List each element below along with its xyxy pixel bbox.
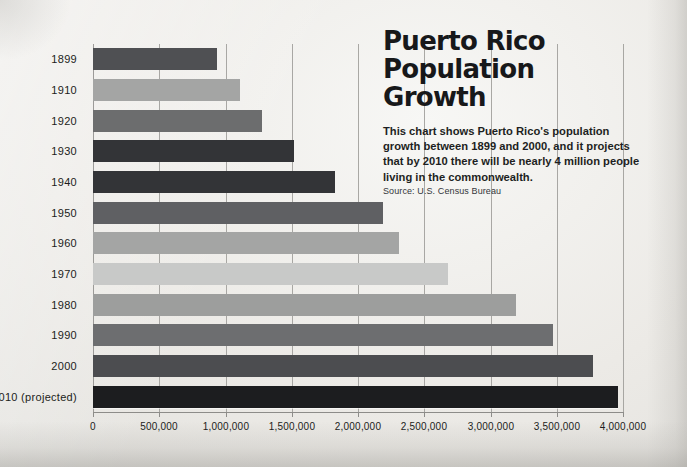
x-axis-label-500000: 500,000 [140, 421, 178, 432]
x-axis-tick [292, 412, 293, 417]
title-line-2: Population [383, 55, 673, 83]
x-axis-label-3000000: 3,000,000 [468, 421, 514, 432]
chart-page: 1899191019201930194019501960197019801990… [0, 0, 687, 467]
y-axis-label-1970: 1970 [51, 268, 77, 280]
x-axis-tick [358, 412, 359, 417]
x-axis-label-4000000: 4,000,000 [600, 421, 646, 432]
y-axis-label-1980: 1980 [51, 299, 77, 311]
bar-2000[interactable] [93, 355, 593, 377]
x-axis-tick [159, 412, 160, 417]
x-axis-label-1500000: 1,500,000 [269, 421, 315, 432]
x-axis-tick [424, 412, 425, 417]
y-axis-label-1910: 1910 [51, 84, 77, 96]
bar-2010-projected-[interactable] [93, 386, 618, 408]
x-axis-tick [557, 412, 558, 417]
bar-1930[interactable] [93, 140, 294, 162]
y-axis-labels: 1899191019201930194019501960197019801990… [0, 44, 85, 412]
y-axis-label-1920: 1920 [51, 115, 77, 127]
title-line-3: Growth [383, 83, 673, 111]
bar-1950[interactable] [93, 202, 383, 224]
y-axis-label-1899: 1899 [51, 53, 77, 65]
bar-1940[interactable] [93, 171, 335, 193]
y-axis-label-1950: 1950 [51, 207, 77, 219]
bar-1899[interactable] [93, 48, 217, 70]
bar-1910[interactable] [93, 79, 240, 101]
bar-1920[interactable] [93, 110, 262, 132]
x-axis-label-3500000: 3,500,000 [534, 421, 580, 432]
x-axis-label-2000000: 2,000,000 [335, 421, 381, 432]
x-axis-tick [491, 412, 492, 417]
x-axis-label-0: 0 [90, 421, 96, 432]
bar-1980[interactable] [93, 294, 516, 316]
y-axis-label-1960: 1960 [51, 237, 77, 249]
x-axis-label-2500000: 2,500,000 [401, 421, 447, 432]
chart-title: Puerto Rico Population Growth [383, 27, 673, 111]
title-line-1: Puerto Rico [383, 27, 673, 55]
bar-1970[interactable] [93, 263, 448, 285]
chart-source: Source: U.S. Census Bureau [383, 186, 501, 196]
bar-1960[interactable] [93, 232, 399, 254]
x-axis-tick [226, 412, 227, 417]
bar-1990[interactable] [93, 324, 553, 346]
y-axis-label-1940: 1940 [51, 176, 77, 188]
y-axis-label-1930: 1930 [51, 145, 77, 157]
x-axis-label-1000000: 1,000,000 [203, 421, 249, 432]
y-axis-label-1990: 1990 [51, 329, 77, 341]
x-axis-tick [623, 412, 624, 417]
y-axis-label-2000: 2000 [51, 360, 77, 372]
x-axis-tick [93, 412, 94, 417]
chart-description: This chart shows Puerto Rico's populatio… [383, 124, 641, 185]
y-axis-label-2010-projected-: 2010 (projected) [0, 391, 77, 403]
